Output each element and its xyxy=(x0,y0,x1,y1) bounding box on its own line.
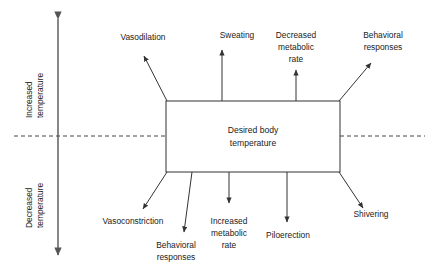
arrow-behavioral-responses-upper xyxy=(339,63,371,101)
label-shivering: Shivering xyxy=(354,209,389,219)
axis-label-increased-line2: temperature xyxy=(35,73,45,118)
upper-response-arrows xyxy=(144,50,371,101)
label-increased-metabolic-rate-line2: metabolic xyxy=(211,228,247,238)
label-piloerection: Piloerection xyxy=(266,230,310,240)
box-label-line2: temperature xyxy=(230,138,277,148)
arrow-behavioral-responses-lower xyxy=(184,172,192,232)
label-increased-metabolic-rate: Increased metabolic rate xyxy=(211,216,248,250)
label-increased-metabolic-rate-line3: rate xyxy=(222,240,237,250)
label-sweating: Sweating xyxy=(220,30,255,40)
arrow-vasoconstriction xyxy=(143,172,167,209)
lower-response-arrows xyxy=(143,172,363,232)
label-behavioral-responses-upper-line1: Behavioral xyxy=(363,30,403,40)
label-behavioral-responses-upper: Behavioral responses xyxy=(363,30,403,52)
thermoregulation-diagram: Increased temperature Decreased temperat… xyxy=(0,0,437,279)
desired-body-temperature-box xyxy=(166,101,340,172)
label-decreased-metabolic-rate-line1: Decreased xyxy=(276,30,317,40)
axis-label-increased: Increased temperature xyxy=(24,73,45,118)
label-vasodilation: Vasodilation xyxy=(120,32,165,42)
box-label-line1: Desired body xyxy=(228,125,279,135)
label-behavioral-responses-lower-line2: responses xyxy=(157,252,196,262)
axis-label-increased-line1: Increased xyxy=(24,81,34,118)
arrow-vasodilation xyxy=(144,56,167,101)
axis-label-decreased-line2: temperature xyxy=(35,183,45,228)
axis-label-decreased-line1: Decreased xyxy=(24,187,34,228)
label-decreased-metabolic-rate-line2: metabolic xyxy=(278,42,314,52)
label-behavioral-responses-lower: Behavioral responses xyxy=(156,240,196,262)
arrow-shivering xyxy=(339,172,363,208)
label-increased-metabolic-rate-line1: Increased xyxy=(211,216,248,226)
diagram-canvas: Increased temperature Decreased temperat… xyxy=(0,0,437,279)
label-behavioral-responses-upper-line2: responses xyxy=(364,42,403,52)
axis-label-decreased: Decreased temperature xyxy=(24,183,45,228)
label-decreased-metabolic-rate: Decreased metabolic rate xyxy=(276,30,317,64)
label-behavioral-responses-lower-line1: Behavioral xyxy=(156,240,196,250)
label-decreased-metabolic-rate-line3: rate xyxy=(289,54,304,64)
label-vasoconstriction: Vasoconstriction xyxy=(103,216,164,226)
